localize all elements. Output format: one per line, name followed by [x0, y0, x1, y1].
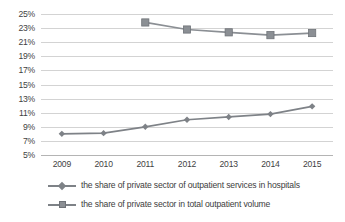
line-chart: 25%23%21%19%17%15%13%11%9%7%5% 200920102…: [0, 0, 345, 222]
y-axis-labels: 25%23%21%19%17%15%13%11%9%7%5%: [0, 14, 38, 155]
y-axis-tick-label: 17%: [0, 66, 35, 75]
legend-item-series-1[interactable]: the share of private sector of outpatien…: [48, 176, 338, 195]
x-axis-tick-label: 2013: [207, 158, 251, 170]
y-axis-tick-label: 5%: [0, 151, 35, 160]
data-point-diamond: [59, 131, 65, 137]
data-point-diamond: [184, 117, 190, 123]
data-point-square: [267, 32, 274, 39]
data-point-square: [309, 29, 316, 36]
x-axis-labels: 2009201020112012201320142015: [41, 158, 333, 172]
x-axis-tick-label: 2010: [82, 158, 126, 170]
diamond-line-marker-icon: [48, 180, 76, 192]
y-axis-tick-label: 21%: [0, 38, 35, 47]
data-point-square: [225, 29, 232, 36]
data-point-diamond: [309, 103, 315, 109]
plot-area: [41, 14, 333, 155]
data-point-diamond: [226, 114, 232, 120]
y-axis-tick-label: 13%: [0, 94, 35, 103]
y-axis-tick-label: 19%: [0, 52, 35, 61]
data-point-square: [183, 26, 190, 33]
series-1: [59, 103, 316, 137]
y-axis-tick-label: 9%: [0, 122, 35, 131]
chart-legend: the share of private sector of outpatien…: [48, 176, 338, 214]
gridline-5: [41, 155, 333, 156]
data-point-diamond: [100, 130, 106, 136]
x-axis-tick-label: 2009: [40, 158, 84, 170]
y-axis-tick-label: 15%: [0, 80, 35, 89]
y-axis-tick-label: 23%: [0, 24, 35, 33]
y-axis-tick-label: 11%: [0, 108, 35, 117]
x-axis-tick-label: 2012: [165, 158, 209, 170]
y-axis-tick-label: 7%: [0, 136, 35, 145]
y-axis-tick-label: 25%: [0, 10, 35, 19]
x-axis-tick-label: 2015: [290, 158, 334, 170]
square-line-marker-icon: [48, 199, 76, 211]
legend-label-series-1: the share of private sector of outpatien…: [81, 180, 300, 191]
data-point-diamond: [267, 111, 273, 117]
series-2: [142, 19, 316, 39]
series-layer: [41, 14, 333, 155]
legend-label-series-2: the share of private sector in total out…: [81, 199, 270, 210]
x-axis-tick-label: 2014: [248, 158, 292, 170]
data-point-diamond: [142, 124, 148, 130]
x-axis-tick-label: 2011: [123, 158, 167, 170]
data-point-square: [142, 19, 149, 26]
legend-item-series-2[interactable]: the share of private sector in total out…: [48, 195, 338, 214]
